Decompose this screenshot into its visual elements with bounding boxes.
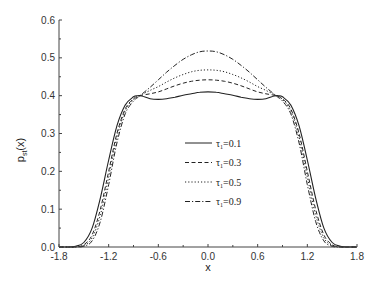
- x-axis-title: x: [205, 261, 211, 273]
- x-tick-label: -1.2: [100, 251, 118, 262]
- legend-label: τ1=0.9: [216, 196, 241, 208]
- axes: [59, 20, 357, 247]
- y-tick-label: 0.6: [41, 15, 55, 26]
- y-tick-label: 0.2: [41, 166, 55, 177]
- y-tick-label: 0.3: [41, 128, 55, 139]
- y-tick-label: 0.5: [41, 52, 55, 63]
- x-tick-label: -0.6: [150, 251, 168, 262]
- legend-label: τ1=0.3: [216, 157, 241, 169]
- svg-text:pst(x): pst(x): [14, 138, 28, 162]
- legend-item: τ1=0.3: [185, 157, 241, 169]
- x-tick-label: 1.8: [350, 251, 364, 262]
- series-line-1: [59, 80, 357, 247]
- legend-label: τ1=0.5: [216, 177, 241, 189]
- plot-lines: [59, 51, 357, 247]
- legend: τ1=0.1τ1=0.3τ1=0.5τ1=0.9: [185, 138, 241, 209]
- y-axis-title: pst(x): [14, 138, 28, 162]
- y-axis-title-tail: (x): [14, 138, 26, 151]
- legend-item: τ1=0.9: [185, 196, 241, 208]
- series-line-0: [59, 92, 357, 247]
- line-chart: 0.00.10.20.30.40.50.6-1.8-1.2-0.60.00.61…: [0, 0, 381, 287]
- y-tick-label: 0.1: [41, 204, 55, 215]
- legend-item: τ1=0.1: [185, 138, 241, 150]
- x-tick-label: 1.2: [300, 251, 314, 262]
- y-tick-label: 0.4: [41, 90, 55, 101]
- series-line-2: [59, 70, 357, 247]
- x-tick-label: -1.8: [50, 251, 68, 262]
- legend-item: τ1=0.5: [185, 177, 241, 189]
- legend-label: τ1=0.1: [216, 138, 241, 150]
- series-line-3: [59, 51, 357, 247]
- x-tick-label: 0.6: [251, 251, 265, 262]
